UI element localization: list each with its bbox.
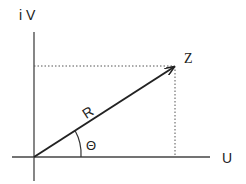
axis-x-label: U [222,150,232,166]
point-z-label: Z [184,51,193,66]
vector-arrow [34,67,174,157]
complex-plane-diagram: i V U Z R Θ [0,0,246,184]
angle-theta-label: Θ [86,138,96,153]
axis-y-label: i V [19,7,36,23]
angle-arc [75,131,81,158]
